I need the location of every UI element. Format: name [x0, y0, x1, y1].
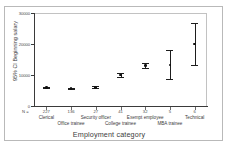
mean-point-marker [94, 86, 97, 89]
n-value-label: 5 [160, 109, 180, 114]
category-label: Technical [172, 115, 218, 121]
category-label: MBA trainee [147, 121, 193, 127]
error-bar-cap-lower [166, 79, 173, 80]
y-axis-title: 95% CI Beginning salary [12, 12, 18, 90]
y-tick-label: 10000 [0, 73, 30, 78]
y-axis-line [34, 13, 35, 107]
n-prefix-label: N = [22, 109, 29, 114]
n-value-label: 136 [61, 109, 81, 114]
y-tick-mark [31, 106, 35, 107]
y-tick-mark [31, 44, 35, 45]
error-bar-cap-lower [191, 65, 198, 66]
category-label: College trainee [98, 121, 144, 127]
n-value-label: 32 [135, 109, 155, 114]
category-label: Office trainee [48, 121, 94, 127]
y-tick-mark [31, 13, 35, 14]
y-tick-label: 20000 [0, 42, 30, 47]
error-bar-chart-figure: 95% CI Beginning salary Employment categ… [0, 0, 228, 152]
n-value-label: 227 [36, 109, 56, 114]
error-bar-cap-upper [191, 23, 198, 24]
y-tick-label: 30000 [0, 11, 30, 16]
y-tick-label: 0 [0, 104, 30, 109]
y-tick-mark [31, 75, 35, 76]
n-value-label: 41 [111, 109, 131, 114]
n-value-label: 27 [86, 109, 106, 114]
mean-point-marker [144, 64, 147, 67]
error-bar-cap-lower [117, 77, 124, 78]
mean-point-marker [70, 87, 73, 90]
error-bar-cap-upper [166, 50, 173, 51]
plot-area [34, 13, 207, 106]
error-bar-cap-lower [142, 68, 149, 69]
n-value-label: 6 [185, 109, 205, 114]
x-axis-title: Employment category [34, 130, 184, 139]
mean-point-marker [45, 86, 48, 89]
